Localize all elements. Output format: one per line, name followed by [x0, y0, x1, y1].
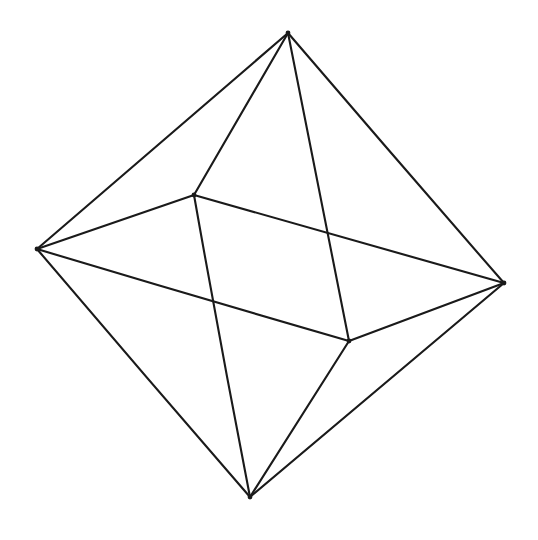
edge-top-front: [194, 33, 288, 195]
drawing-canvas: [0, 0, 538, 540]
vertex-top: [286, 31, 291, 36]
octahedron-figure: [0, 0, 538, 540]
edge-top-right: [288, 33, 504, 283]
edge-right-back: [349, 283, 504, 341]
vertex-bottom: [248, 495, 253, 500]
edge-group: [35, 31, 507, 500]
edge-top-back: [288, 33, 349, 341]
edge-bottom-right: [250, 283, 504, 497]
edge-bottom-back: [250, 341, 349, 497]
vertex-right: [502, 281, 507, 286]
vertex-front: [192, 193, 197, 198]
vertex-left: [35, 247, 40, 252]
edge-bottom-front: [194, 195, 250, 497]
edge-top-left: [37, 33, 288, 249]
edge-left-front: [37, 195, 194, 249]
edge-left-back: [37, 249, 349, 341]
edge-bottom-left: [37, 249, 250, 497]
vertex-back: [347, 339, 352, 344]
edge-right-front: [194, 195, 504, 283]
